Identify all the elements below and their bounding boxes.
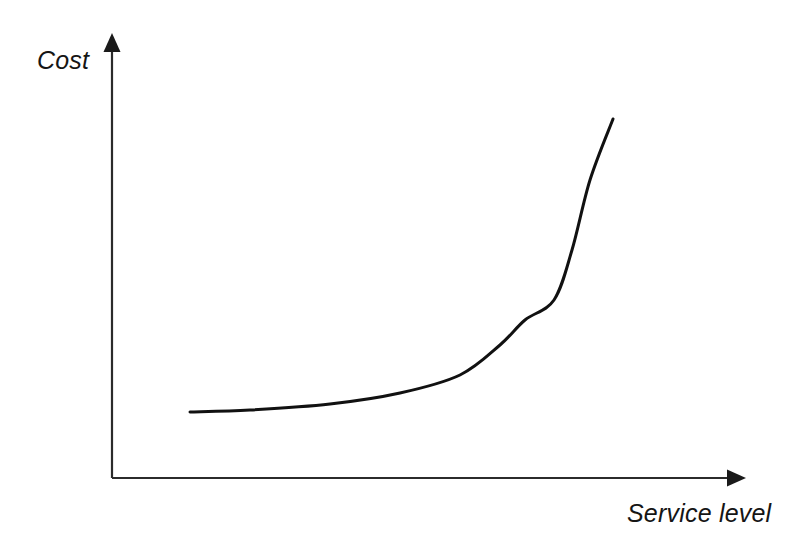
y-axis-arrow-icon	[104, 33, 121, 52]
y-axis-label: Cost	[37, 48, 89, 73]
cost-curve-line	[190, 119, 613, 412]
x-axis-arrow-icon	[727, 470, 746, 487]
chart-figure: Cost Service level	[0, 0, 786, 547]
chart-plot-area	[0, 0, 786, 547]
x-axis-label: Service level	[627, 501, 771, 526]
